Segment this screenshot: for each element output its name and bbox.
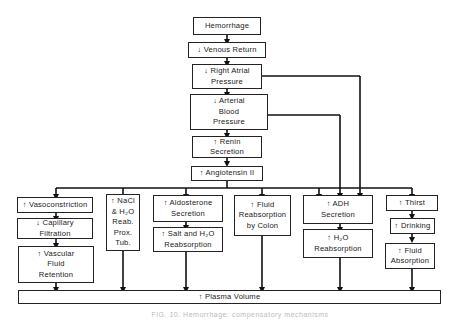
- node-label: ↑ Fluid Absorption: [391, 246, 429, 267]
- node-label: ↑ Renin Secretion: [210, 137, 244, 158]
- node-label: ↑ NaCl & H₂O Reab. Prox. Tub.: [111, 196, 135, 249]
- node-label: ↑ Aldosterone Secretion: [164, 198, 213, 219]
- node-label: ↑ Drinking: [395, 221, 431, 232]
- node-venous-return: ↓ Venous Return: [188, 42, 266, 58]
- node-label: ↑ Fluid Reabsorption by Colon: [239, 200, 287, 232]
- node-h2o-reabsorption: ↑ H₂O Reabsorption: [303, 229, 373, 258]
- node-label: ↓ Venous Return: [197, 45, 256, 56]
- node-capillary-filtration: ↓ Capillary Filtration: [17, 218, 93, 239]
- node-label: ↓ Capillary Filtration: [36, 218, 74, 239]
- node-label: ↑ Salt and H₂O Reabsorption: [161, 229, 214, 250]
- node-colon-fluid-reabsorption: ↑ Fluid Reabsorption by Colon: [234, 195, 291, 236]
- node-arterial-blood-pressure: ↓ Arterial Blood Pressure: [190, 94, 268, 130]
- node-label: ↓ Right Atrial Pressure: [204, 66, 249, 87]
- node-plasma-volume: ↑ Plasma Volume: [18, 290, 441, 304]
- figure-caption: FIG. 10. Hemorrhage: compensatory mechan…: [120, 311, 360, 318]
- node-vascular-fluid-retention: ↑ Vascular Fluid Retention: [18, 246, 94, 283]
- node-salt-h2o-reabsorption: ↑ Salt and H₂O Reabsorption: [153, 227, 223, 252]
- node-label: Hemorrhage: [205, 21, 249, 32]
- node-label: ↑ Thirst: [399, 198, 425, 209]
- node-nacl-reabsorption: ↑ NaCl & H₂O Reab. Prox. Tub.: [106, 194, 140, 251]
- node-label: ↑ Vasoconstriction: [23, 200, 88, 211]
- node-label: ↑ ADH Secretion: [321, 199, 355, 220]
- node-label: ↓ Arterial Blood Pressure: [213, 96, 245, 128]
- node-label: ↑ Plasma Volume: [199, 292, 261, 303]
- node-thirst: ↑ Thirst: [386, 195, 438, 211]
- node-right-atrial-pressure: ↓ Right Atrial Pressure: [192, 64, 262, 89]
- node-renin-secretion: ↑ Renin Secretion: [192, 136, 262, 158]
- node-hemorrhage: Hemorrhage: [193, 17, 261, 35]
- node-adh-secretion: ↑ ADH Secretion: [303, 195, 373, 224]
- node-label: ↑ H₂O Reabsorption: [314, 233, 362, 254]
- node-drinking: ↑ Drinking: [390, 218, 435, 234]
- node-label: ↑ Angiotensin II: [200, 168, 255, 179]
- node-fluid-absorption: ↑ Fluid Absorption: [385, 243, 435, 269]
- node-vasoconstriction: ↑ Vasoconstriction: [17, 197, 93, 213]
- node-aldosterone-secretion: ↑ Aldosterone Secretion: [153, 195, 223, 222]
- node-label: ↑ Vascular Fluid Retention: [38, 249, 75, 281]
- node-angiotensin-ii: ↑ Angiotensin II: [191, 166, 263, 181]
